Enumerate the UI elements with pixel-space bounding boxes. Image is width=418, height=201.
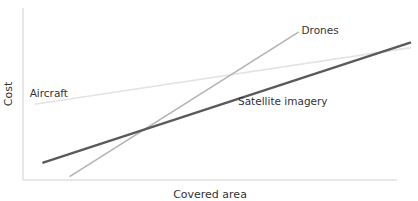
series-label-drones: Drones — [301, 24, 338, 36]
series-line-satellite-imagery — [42, 42, 411, 162]
series-label-aircraft: Aircraft — [30, 87, 68, 99]
series-label-satellite-imagery: Satellite imagery — [238, 95, 328, 107]
x-axis-label: Covered area — [173, 188, 247, 201]
y-axis-label: Cost — [2, 81, 15, 106]
series-line-aircraft — [35, 48, 411, 105]
chart: Covered area Cost Aircraft Satellite ima… — [0, 0, 418, 201]
